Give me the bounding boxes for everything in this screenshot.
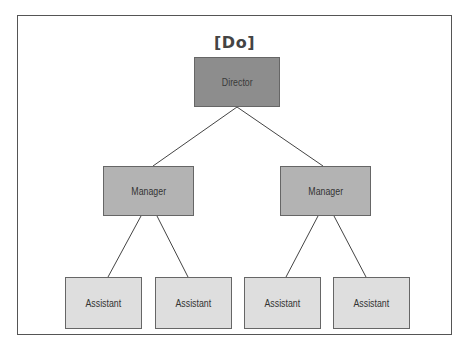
link-manager-left-assistant-1 [108, 216, 141, 277]
node-label: Assistant [354, 297, 390, 309]
node-manager-right: Manager [280, 166, 371, 216]
link-manager-right-assistant-3 [286, 216, 318, 277]
link-director-manager-right [237, 107, 323, 166]
node-assistant-3: Assistant [244, 277, 321, 329]
node-label: Assistant [265, 297, 301, 309]
node-label: Assistant [176, 297, 212, 309]
node-label: Assistant [86, 297, 122, 309]
node-assistant-2: Assistant [155, 277, 232, 329]
diagram-title: [Do] [0, 33, 469, 52]
node-assistant-1: Assistant [65, 277, 142, 329]
node-director: Director [194, 57, 280, 107]
node-assistant-4: Assistant [333, 277, 410, 329]
link-director-manager-left [153, 107, 237, 166]
node-label: Manager [308, 185, 343, 197]
link-manager-left-assistant-2 [157, 216, 188, 277]
node-label: Director [222, 76, 253, 88]
node-label: Manager [131, 185, 166, 197]
node-manager-left: Manager [103, 166, 194, 216]
link-manager-right-assistant-4 [334, 216, 366, 277]
